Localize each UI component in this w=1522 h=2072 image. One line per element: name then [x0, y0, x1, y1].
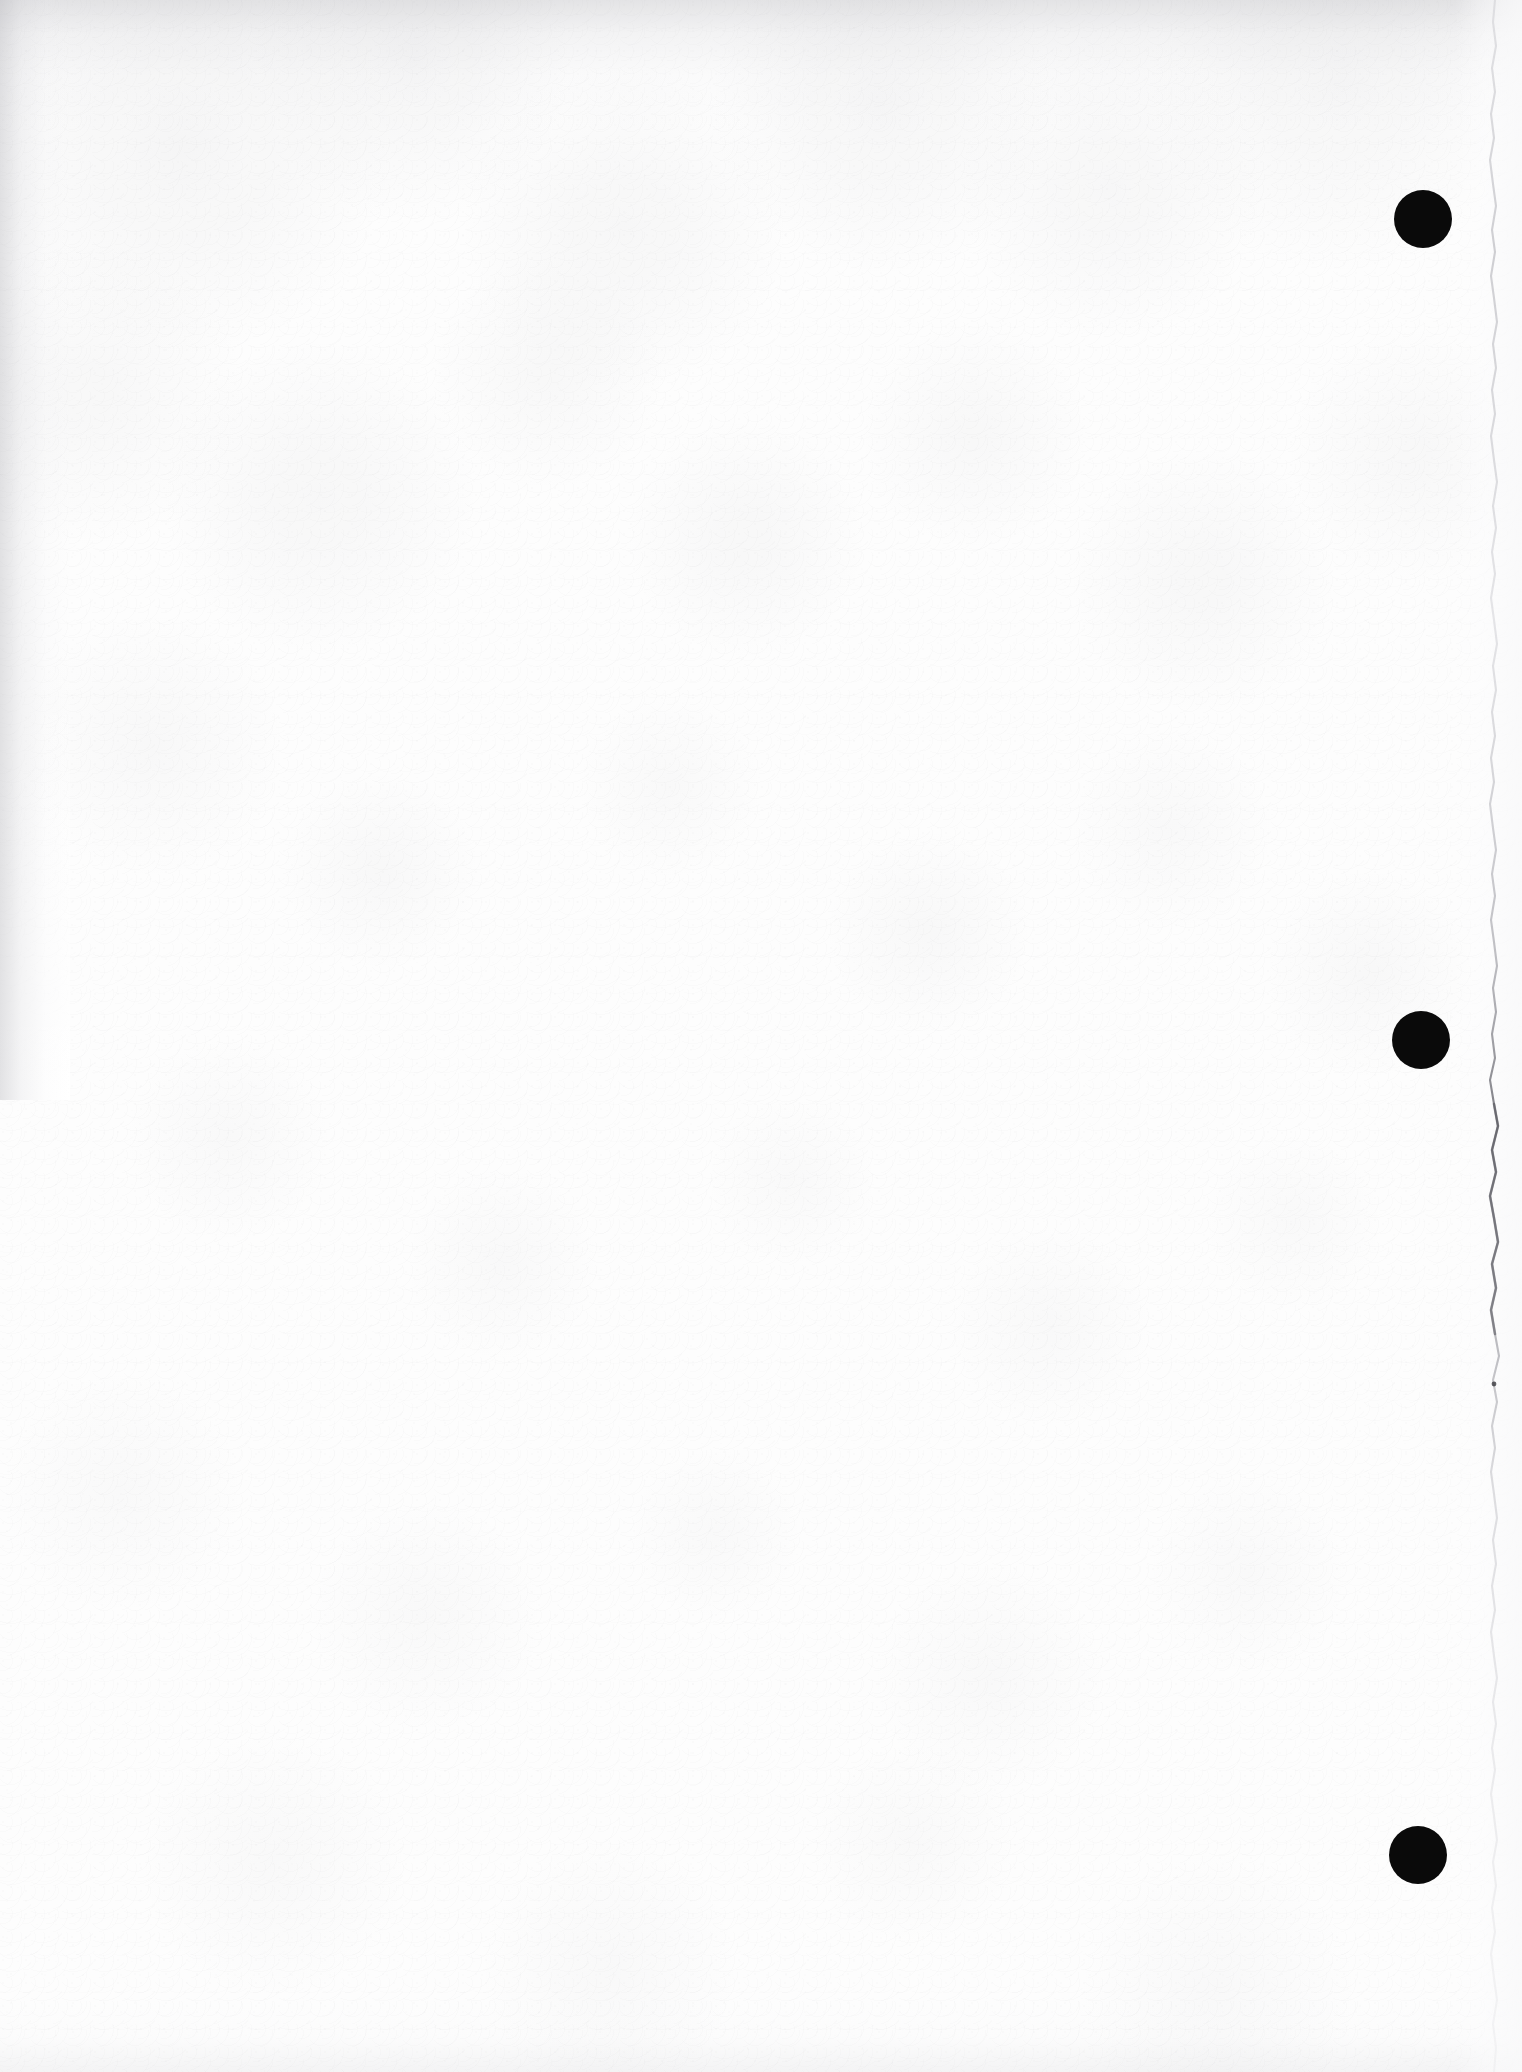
paper-background — [0, 0, 1522, 2072]
scanned-page — [0, 0, 1522, 2072]
punch-dot-middle — [1392, 1011, 1450, 1069]
punch-dot-bottom — [1389, 1826, 1447, 1884]
punch-dot-top — [1394, 190, 1452, 248]
